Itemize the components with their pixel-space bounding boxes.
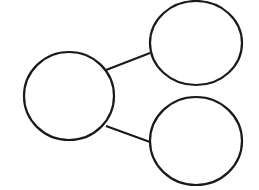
part-circle-top [150,1,242,85]
part-circle-bottom [150,97,242,185]
connector-line-top [106,53,150,70]
number-bond-diagram [0,0,259,190]
whole-circle [24,52,114,140]
connector-line-bottom [106,126,150,142]
